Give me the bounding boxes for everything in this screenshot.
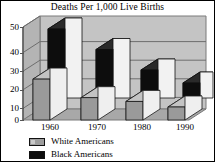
y-tick-label-10: 10 (2, 104, 19, 113)
x-tick-label-1960: 1960 (30, 122, 70, 132)
chart-legend: White Americans Black Americans (29, 135, 114, 161)
y-tick-mark-30 (20, 71, 24, 72)
y-tick-label-40: 40 (2, 48, 19, 57)
legend-label-black-americans: Black Americans (51, 150, 113, 159)
plot-canvas (1, 1, 214, 136)
x-tick-label-1980: 1980 (122, 122, 162, 132)
bar-1960-white (33, 68, 67, 120)
bar-chart: Deaths Per 1,000 Live Births (1, 1, 214, 161)
y-tick-mark-50 (20, 27, 24, 28)
legend-swatch-black-icon (29, 151, 45, 159)
plot-area: 50 40 30 20 10 0 (1, 1, 214, 136)
legend-label-white-americans: White Americans (51, 137, 114, 146)
x-tick-label-1970: 1970 (77, 122, 117, 132)
y-tick-label-20: 20 (2, 85, 19, 94)
y-tick-label-50: 50 (2, 23, 19, 32)
legend-swatch-white-icon (29, 138, 45, 146)
y-tick-mark-0 (20, 120, 24, 121)
y-tick-mark-40 (20, 53, 24, 54)
y-tick-mark-20 (20, 90, 24, 91)
x-tick-label-1990: 1990 (165, 122, 205, 132)
legend-item-black-americans: Black Americans (29, 148, 114, 161)
legend-item-white-americans: White Americans (29, 135, 114, 148)
y-tick-label-0: 0 (2, 116, 19, 125)
y-tick-label-30: 30 (2, 67, 19, 76)
y-tick-mark-10 (20, 108, 24, 109)
